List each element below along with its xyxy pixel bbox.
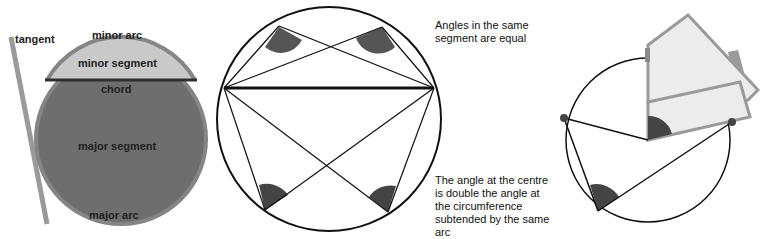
- card-edge: [645, 48, 650, 62]
- major-arc-label: major arc: [89, 209, 139, 222]
- centre-angle-figure: [560, 15, 758, 222]
- same-segment-figure: [217, 7, 441, 231]
- centre-angle-caption: The angle at the centre is double the an…: [435, 174, 549, 239]
- point-marker: [728, 118, 736, 126]
- angle-marker: [265, 27, 302, 53]
- angle-marker: [356, 27, 395, 54]
- same-segment-caption: Angles in the same segment are equal: [435, 19, 529, 45]
- minor-segment-label: minor segment: [78, 57, 157, 70]
- tangent-label: tangent: [15, 33, 55, 46]
- circle-outline: [217, 7, 441, 231]
- major-segment-label: major segment: [78, 140, 156, 153]
- point-marker: [560, 114, 568, 122]
- chord-label: chord: [101, 83, 132, 96]
- minor-arc-label: minor arc: [92, 29, 142, 42]
